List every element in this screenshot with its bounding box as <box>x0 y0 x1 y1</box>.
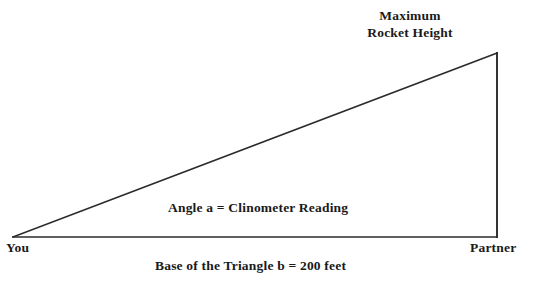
rocket-height-diagram: Maximum Rocket Height Angle a = Clinomet… <box>0 0 539 284</box>
title-line-2: Rocket Height <box>367 25 452 40</box>
base-measurement-label: Base of the Triangle b = 200 feet <box>155 258 346 274</box>
angle-reading-label: Angle a = Clinometer Reading <box>168 200 348 216</box>
you-vertex-label: You <box>6 240 29 256</box>
maximum-rocket-height-label: Maximum Rocket Height <box>350 7 470 41</box>
title-line-1: Maximum <box>379 8 440 23</box>
triangle-shape <box>0 0 539 284</box>
partner-vertex-label: Partner <box>470 240 516 256</box>
